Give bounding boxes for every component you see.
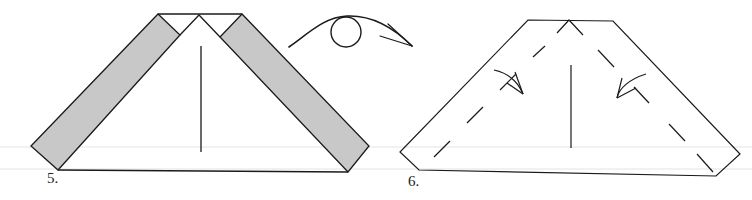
step-5-figure xyxy=(31,14,369,172)
center-peak xyxy=(180,15,220,37)
left-valley-fold-dashed xyxy=(434,46,545,157)
right-valley-fold-dashed xyxy=(598,50,713,172)
arrow-curve xyxy=(289,16,412,47)
turn-circle xyxy=(331,17,361,47)
step-6-label: 6. xyxy=(408,173,419,190)
step-6-figure xyxy=(400,20,740,176)
left-folded-strip xyxy=(31,14,180,170)
right-folded-strip xyxy=(220,14,369,172)
model-outline xyxy=(400,20,740,176)
origami-diagram xyxy=(0,0,752,200)
turn-over-arrow-icon xyxy=(289,16,412,47)
bottom-edge xyxy=(58,170,348,172)
step-5-label: 5. xyxy=(47,170,58,187)
peak-mark xyxy=(557,20,583,35)
